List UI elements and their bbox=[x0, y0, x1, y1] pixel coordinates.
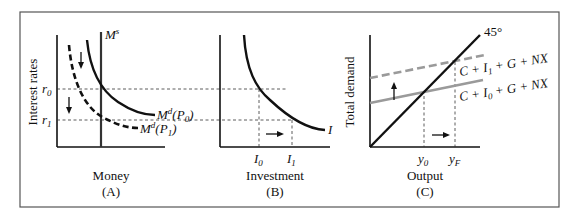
panel-c-y-label: Total demand bbox=[342, 56, 357, 127]
down-arrow-icon bbox=[78, 52, 84, 69]
y0-label: y0 bbox=[416, 151, 429, 168]
panel-a-x-label: Money bbox=[93, 168, 130, 183]
demand-i0-label: C + I0 + G + NX bbox=[458, 75, 550, 106]
money-demand-p0-curve bbox=[87, 40, 155, 115]
panel-c-caption: (C) bbox=[416, 184, 433, 199]
figure-stage: Ms Md(P0) Md(P1) r0 r1 Interest rates Mo… bbox=[0, 0, 578, 221]
panel-c-x-label: Output bbox=[407, 168, 444, 183]
investment-curve bbox=[244, 35, 325, 130]
down-arrow-icon bbox=[66, 97, 72, 114]
panel-b-x-label: Investment bbox=[246, 168, 304, 183]
45-degree-label: 45° bbox=[484, 24, 502, 39]
right-arrow-icon bbox=[266, 131, 284, 137]
i1-label: I1 bbox=[286, 151, 296, 168]
panel-c: 45° C + I1 + G + NX C + I0 + G + NX y0 y… bbox=[342, 24, 550, 199]
i0-label: I0 bbox=[253, 151, 263, 168]
panel-b: I I0 I1 Investment (B) bbox=[220, 35, 333, 199]
r0-label: r0 bbox=[42, 81, 52, 98]
money-supply-label: Ms bbox=[104, 26, 120, 42]
panel-a-y-label: Interest rates bbox=[25, 59, 40, 126]
money-demand-p1-label: Md(P1) bbox=[139, 120, 176, 138]
yf-label: yF bbox=[447, 151, 461, 168]
right-arrow-icon bbox=[432, 132, 450, 138]
money-investment-output-diagram: Ms Md(P0) Md(P1) r0 r1 Interest rates Mo… bbox=[0, 0, 578, 221]
r1-label: r1 bbox=[42, 112, 52, 129]
panel-a-caption: (A) bbox=[102, 184, 120, 199]
panel-b-caption: (B) bbox=[266, 184, 283, 199]
investment-curve-label: I bbox=[327, 122, 333, 137]
